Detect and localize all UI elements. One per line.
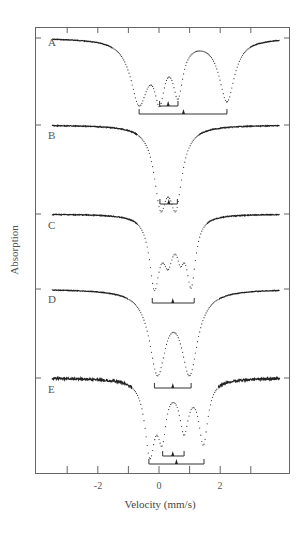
x-tick-label-0: 0 [157,480,162,491]
panel-label-a: A [48,36,56,48]
panel-label-d: D [48,293,56,305]
x-axis-label: Velocity (mm/s) [124,498,195,510]
axis-ticks [35,27,290,473]
plot-frame [36,28,290,474]
spectra-group [52,39,280,459]
mossbauer-chart [0,0,307,537]
panel-label-c: C [48,219,55,231]
x-tick-label-2: 2 [218,480,223,491]
panel-label-e: E [48,383,55,395]
doublet-markers [139,101,227,464]
panel-label-b: B [48,129,55,141]
x-tick-label-neg2: -2 [94,480,102,491]
y-axis-label: Absorption [8,225,20,275]
